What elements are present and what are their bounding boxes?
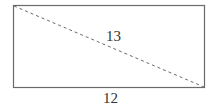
diagonal-length-label: 13 (106, 28, 121, 44)
diagonal-dashed-line (14, 6, 204, 87)
bottom-side-length-label: 12 (103, 90, 118, 106)
rectangle-diagram: 13 12 (0, 0, 217, 106)
